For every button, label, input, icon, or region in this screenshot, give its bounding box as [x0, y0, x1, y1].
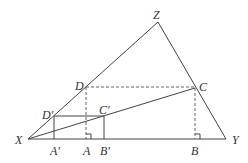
label-cprime: C' — [99, 103, 110, 117]
label-d: D — [74, 79, 84, 93]
label-x: X — [14, 133, 23, 147]
label-c: C — [199, 80, 208, 94]
label-y: Y — [232, 133, 240, 147]
right-angle-mark-a — [86, 134, 91, 139]
label-dprime: D' — [41, 108, 54, 122]
label-bprime: B' — [100, 144, 110, 158]
label-z: Z — [153, 8, 160, 22]
label-aprime: A' — [49, 144, 60, 158]
segment-zy — [158, 22, 226, 139]
right-angle-mark-b — [195, 134, 200, 139]
label-b: B — [191, 144, 199, 158]
geometry-diagram: Z D C D' C' X A' A B' B Y — [0, 0, 248, 163]
label-a: A — [82, 144, 91, 158]
